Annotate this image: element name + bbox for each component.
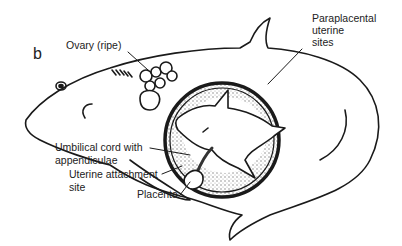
label-paraplacental-3: sites xyxy=(312,36,334,48)
label-ovary: Ovary (ripe) xyxy=(66,39,121,51)
label-umbilical-2: appendiculae xyxy=(55,154,117,166)
label-umbilical-1: Umbilical cord with xyxy=(55,141,143,153)
shark-illustration xyxy=(0,0,402,246)
shark-reproduction-diagram: b Ovary (ripe) Paraplacental uterine sit… xyxy=(0,0,402,246)
label-uterine-attachment-1: Uterine attachment xyxy=(69,168,158,180)
label-paraplacental-1: Paraplacental xyxy=(312,12,376,24)
label-placenta: Placenta xyxy=(137,188,178,200)
panel-letter: b xyxy=(33,45,42,63)
label-paraplacental-2: uterine xyxy=(312,24,344,36)
label-uterine-attachment-2: site xyxy=(69,181,85,193)
